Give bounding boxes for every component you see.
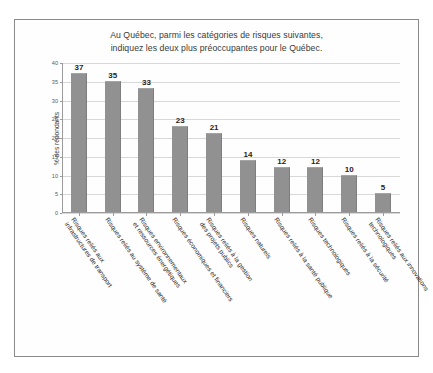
bar-slot[interactable]: 12	[299, 63, 333, 213]
bar-value-label: 14	[243, 150, 252, 159]
bar[interactable]	[307, 167, 323, 213]
bar-slot[interactable]: 35	[96, 63, 130, 213]
y-tick-label: 35	[52, 79, 58, 85]
x-category-label-line: Risques reliés à la santé publique	[272, 216, 334, 300]
x-category-label-line: des projets publics	[199, 220, 249, 287]
chart-figure: Au Québec, parmi les catégories de risqu…	[14, 19, 419, 357]
bar-slot[interactable]: 23	[163, 63, 197, 213]
bar[interactable]	[71, 73, 87, 213]
bar-value-label: 21	[210, 123, 219, 132]
bar-value-label: 12	[277, 157, 286, 166]
bar-value-label: 12	[311, 157, 320, 166]
x-category-label-line: infrastructures de transport	[63, 220, 114, 288]
y-tick-label: 40	[52, 60, 58, 66]
bar[interactable]	[172, 126, 188, 213]
y-tick-label: 15	[52, 154, 58, 160]
bar-value-label: 33	[142, 78, 151, 87]
y-tick-label: 30	[52, 98, 58, 104]
bar[interactable]	[274, 167, 290, 213]
y-tick-label: 20	[52, 135, 58, 141]
bar-slot[interactable]: 10	[332, 63, 366, 213]
y-tick-label: 10	[52, 173, 58, 179]
bar-value-label: 37	[74, 63, 83, 72]
chart-title-line-1: Au Québec, parmi les catégories de risqu…	[15, 29, 418, 42]
chart-title-line-2: indiquez les deux plus préoccupantes pou…	[15, 42, 418, 55]
bar[interactable]	[375, 193, 391, 213]
bar-value-label: 23	[176, 116, 185, 125]
bar-slot[interactable]: 37	[62, 63, 96, 213]
chart-title: Au Québec, parmi les catégories de risqu…	[15, 29, 418, 54]
x-category-label: Risques reliés aux innovationstechnologi…	[368, 216, 431, 297]
y-tick-label: 0	[55, 210, 58, 216]
y-axis-line	[62, 63, 63, 213]
x-axis-category-labels: Risques reliés auxinfrastructures de tra…	[62, 216, 400, 346]
y-tick-mark	[60, 213, 63, 214]
bar[interactable]	[138, 88, 154, 213]
bar[interactable]	[206, 133, 222, 213]
x-category-label: Risques naturels	[239, 216, 273, 260]
plot-area: 0510152025303540 3735332321141212105	[62, 63, 400, 213]
x-category-label-line: et ressources énergétiques	[131, 220, 182, 289]
bar-value-label: 35	[108, 71, 117, 80]
bar-slot[interactable]: 33	[130, 63, 164, 213]
y-tick-label: 5	[55, 191, 58, 197]
bar-slot[interactable]: 14	[231, 63, 265, 213]
bar-slot[interactable]: 12	[265, 63, 299, 213]
bar[interactable]	[341, 175, 357, 214]
bar-slot[interactable]: 5	[366, 63, 400, 213]
bar-value-label: 5	[381, 183, 385, 192]
bar[interactable]	[240, 160, 256, 214]
x-axis-line	[62, 212, 400, 213]
x-category-label: Risques reliés à la santé publique	[272, 216, 334, 300]
bar-slot[interactable]: 21	[197, 63, 231, 213]
bar[interactable]	[105, 81, 121, 213]
bar-value-label: 10	[345, 165, 354, 174]
x-category-label-line: Risques naturels	[239, 216, 273, 260]
y-tick-label: 25	[52, 116, 58, 122]
